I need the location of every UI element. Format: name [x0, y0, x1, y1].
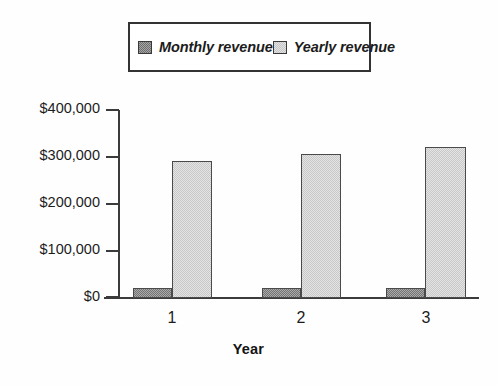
y-tick-300000: [106, 156, 119, 158]
x-axis-title: Year: [0, 341, 497, 357]
bar-monthly-revenue-year-3: [386, 288, 425, 298]
plot-area: $400,000 $300,000 $200,000 $100,000 $0 1…: [0, 0, 497, 386]
x-tick-label-1: 1: [142, 309, 202, 327]
y-tick-100000: [106, 250, 119, 252]
y-tick-label-100000: $100,000: [0, 241, 100, 257]
bar-yearly-revenue-year-2: [301, 154, 341, 298]
bar-monthly-revenue-year-1: [133, 288, 172, 298]
y-tick-label-0: $0: [0, 288, 100, 304]
y-tick-label-400000: $400,000: [0, 100, 100, 116]
bar-chart: Monthly revenue Yearly revenue $400,000 …: [0, 0, 497, 386]
x-tick-label-2: 2: [271, 309, 331, 327]
y-tick-label-200000: $200,000: [0, 194, 100, 210]
bar-yearly-revenue-year-1: [172, 161, 212, 298]
y-tick-200000: [106, 203, 119, 205]
y-tick-label-300000: $300,000: [0, 147, 100, 163]
y-tick-0: [106, 296, 119, 298]
bar-monthly-revenue-year-2: [262, 288, 301, 298]
bar-yearly-revenue-year-3: [425, 147, 466, 298]
x-tick-label-3: 3: [396, 309, 456, 327]
y-tick-400000: [106, 109, 119, 111]
